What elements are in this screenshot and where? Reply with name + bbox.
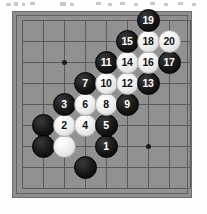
go-board[interactable]: 1234567891011121314151617181920 xyxy=(12,11,192,198)
stone-move-number: 2 xyxy=(61,120,66,131)
stone-white-move-4[interactable]: 4 xyxy=(74,114,97,137)
hoshi-lower-right-icon xyxy=(146,144,151,149)
stone-move-number: 12 xyxy=(122,78,133,89)
go-board-playing-surface[interactable]: 1234567891011121314151617181920 xyxy=(16,15,188,194)
stone-black[interactable] xyxy=(74,156,97,179)
stone-black-move-13[interactable]: 13 xyxy=(137,72,160,95)
stone-black[interactable] xyxy=(32,135,55,158)
stone-move-number: 17 xyxy=(164,57,175,68)
stone-move-number: 19 xyxy=(143,15,154,26)
stone-white-move-14[interactable]: 14 xyxy=(116,51,139,74)
stone-move-number: 16 xyxy=(143,57,154,68)
stone-black-move-1[interactable]: 1 xyxy=(95,135,118,158)
stone-move-number: 9 xyxy=(124,99,129,110)
stone-white-move-2[interactable]: 2 xyxy=(53,114,76,137)
grid-line-vertical xyxy=(43,20,44,188)
stone-move-number: 14 xyxy=(122,57,133,68)
stone-black-move-7[interactable]: 7 xyxy=(74,72,97,95)
stone-black-move-3[interactable]: 3 xyxy=(53,93,76,116)
stone-move-number: 18 xyxy=(143,36,154,47)
stone-move-number: 4 xyxy=(82,120,87,131)
stone-move-number: 3 xyxy=(61,99,66,110)
stone-white-move-6[interactable]: 6 xyxy=(74,93,97,116)
stone-black-move-15[interactable]: 15 xyxy=(116,30,139,53)
stone-move-number: 13 xyxy=(143,78,154,89)
stone-move-number: 8 xyxy=(103,99,108,110)
stone-black-move-11[interactable]: 11 xyxy=(95,51,118,74)
stone-move-number: 7 xyxy=(82,78,87,89)
stone-white-move-20[interactable]: 20 xyxy=(158,30,181,53)
go-diagram-figure: 1234567891011121314151617181920 xyxy=(0,0,207,214)
hoshi-upper-left-icon xyxy=(62,60,67,65)
stone-move-number: 11 xyxy=(101,57,111,68)
stone-move-number: 6 xyxy=(82,99,87,110)
stone-black-move-17[interactable]: 17 xyxy=(158,51,181,74)
scan-artifact-strip xyxy=(0,0,207,11)
stone-black-move-19[interactable]: 19 xyxy=(137,9,160,32)
stone-move-number: 10 xyxy=(101,78,112,89)
grid-line-vertical xyxy=(22,20,23,188)
stone-move-number: 15 xyxy=(122,36,133,47)
grid-line-horizontal xyxy=(22,188,190,189)
stone-white[interactable] xyxy=(53,135,76,158)
stone-move-number: 5 xyxy=(103,120,108,131)
stone-white-move-10[interactable]: 10 xyxy=(95,72,118,95)
stone-white-move-18[interactable]: 18 xyxy=(137,30,160,53)
stone-white-move-8[interactable]: 8 xyxy=(95,93,118,116)
stone-black-move-9[interactable]: 9 xyxy=(116,93,139,116)
stone-white-move-16[interactable]: 16 xyxy=(137,51,160,74)
stone-move-number: 20 xyxy=(164,36,175,47)
stone-black-move-5[interactable]: 5 xyxy=(95,114,118,137)
stone-move-number: 1 xyxy=(103,141,108,152)
go-board-grid: 1234567891011121314151617181920 xyxy=(17,16,197,203)
grid-line-vertical xyxy=(190,20,191,188)
stone-white-move-12[interactable]: 12 xyxy=(116,72,139,95)
stone-black[interactable] xyxy=(32,114,55,137)
